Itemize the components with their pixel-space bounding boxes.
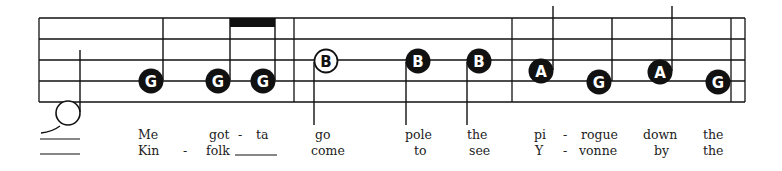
lyric-syllable: down xyxy=(643,129,677,142)
tie-curve xyxy=(41,126,60,133)
lyric-syllable: Kin xyxy=(138,145,159,158)
svg-text:G: G xyxy=(712,74,724,92)
note-heads: G G G B B B A G xyxy=(139,49,731,95)
lyric-hyphen: - xyxy=(563,145,567,158)
lyric-syllable: the xyxy=(703,145,723,158)
note-b: B xyxy=(406,49,431,74)
lyric-syllable: see xyxy=(469,145,490,158)
lyric-syllable: ta xyxy=(256,129,268,142)
lyric-syllable: pole xyxy=(405,129,432,142)
svg-text:B: B xyxy=(473,53,484,71)
svg-text:G: G xyxy=(212,73,224,91)
note-g: G xyxy=(206,69,231,94)
lyric-syllable: Y xyxy=(535,145,543,158)
svg-text:G: G xyxy=(145,73,157,91)
lyric-syllable: by xyxy=(654,145,669,158)
svg-text:G: G xyxy=(593,74,605,92)
lyric-syllable: the xyxy=(467,129,487,142)
lyric-syllable: vonne xyxy=(579,145,617,158)
lyric-hyphen: - xyxy=(563,129,567,142)
beam xyxy=(230,18,275,27)
lyric-syllable: folk xyxy=(206,145,230,158)
svg-text:A: A xyxy=(654,64,666,82)
lyric-syllable: rogue xyxy=(581,129,618,142)
note-g: G xyxy=(587,70,612,95)
note-a: A xyxy=(529,59,554,84)
note-g: G xyxy=(251,69,276,94)
lyric-syllable: the xyxy=(703,129,723,142)
svg-text:B: B xyxy=(320,53,331,71)
lyric-syllable: got xyxy=(209,129,230,142)
note-g: G xyxy=(139,69,164,94)
svg-text:B: B xyxy=(412,53,423,71)
svg-text:A: A xyxy=(535,63,547,81)
lyric-syllable: to xyxy=(414,145,427,158)
lyric-syllable: pi xyxy=(534,129,546,142)
note-g: G xyxy=(706,70,731,95)
note-b-outlined: B xyxy=(315,50,338,73)
lyric-syllable: go xyxy=(315,129,331,142)
svg-text:G: G xyxy=(257,73,269,91)
lyric-syllable: Me xyxy=(138,129,158,142)
note-a: A xyxy=(648,60,673,85)
lyric-hyphen: - xyxy=(238,129,242,142)
note-b: B xyxy=(467,49,492,74)
lyric-hyphen: - xyxy=(183,145,187,158)
lyric-syllable: come xyxy=(311,145,345,158)
